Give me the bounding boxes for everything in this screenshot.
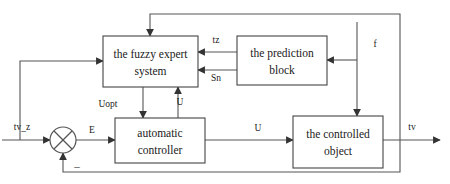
block-fuzzy-expert-system[interactable]: the fuzzy expert system bbox=[103, 36, 198, 87]
signal-label-tv: tv bbox=[408, 122, 416, 132]
signal-label-tz: tz bbox=[213, 35, 220, 45]
block-automatic-controller[interactable]: automatic controller bbox=[115, 118, 205, 163]
signal-label-sn: Sn bbox=[211, 73, 221, 83]
block-prediction-block[interactable]: the prediction block bbox=[237, 36, 327, 85]
signal-label-u: U bbox=[255, 123, 262, 133]
signal-label-f: f bbox=[373, 39, 377, 49]
signal-label-error: E bbox=[89, 125, 95, 135]
signal-label-uopt: Uopt bbox=[99, 99, 118, 109]
block-label-controller-line1: automatic bbox=[137, 127, 182, 139]
block-label-prediction-line2: block bbox=[269, 64, 295, 76]
signal-label-u-feedback: U bbox=[177, 97, 184, 107]
signal-label-minus: – bbox=[73, 160, 80, 172]
block-label-fuzzy-line2: system bbox=[135, 65, 167, 78]
block-label-object-line2: object bbox=[324, 145, 353, 158]
block-label-prediction-line1: the prediction bbox=[250, 47, 314, 60]
signal-label-tv-z: tv_z bbox=[14, 122, 30, 132]
summing-junction[interactable] bbox=[50, 127, 76, 153]
diagram-svg: the fuzzy expert system the prediction b… bbox=[0, 0, 450, 184]
block-diagram-canvas: the fuzzy expert system the prediction b… bbox=[0, 0, 450, 184]
block-label-object-line1: the controlled bbox=[306, 128, 370, 140]
block-label-fuzzy-line1: the fuzzy expert bbox=[113, 48, 188, 61]
block-controlled-object[interactable]: the controlled object bbox=[293, 116, 383, 168]
block-label-controller-line2: controller bbox=[138, 144, 183, 156]
